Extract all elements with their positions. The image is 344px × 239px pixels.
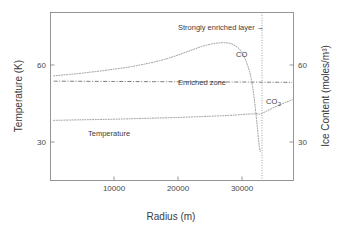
figure-container: 10000 20000 30000 60 30 60 30 Radius (m)… [0,0,344,239]
annotation-co: CO [236,50,247,59]
x-tick-label-10000: 10000 [103,184,126,193]
x-axis-ticks [114,177,242,181]
annotation-co2: CO 2 [266,97,281,107]
y-axis-right-ticks [290,65,294,142]
y-axis-title-left: Temperature (K) [13,60,24,132]
annotation-co2-text: CO [266,97,277,106]
y-tick-label-left-60: 60 [37,61,46,70]
y-axis-left-ticks [51,65,55,142]
chart-canvas: 10000 20000 30000 60 30 60 30 Radius (m)… [0,0,344,239]
x-axis-title: Radius (m) [147,211,196,222]
series-line-enriched-zone [54,81,293,82]
plot-frame [51,13,294,181]
x-tick-label-30000: 30000 [231,184,254,193]
x-tick-label-20000: 20000 [167,184,190,193]
annotation-enriched-zone: Enriched zone [178,78,226,87]
annotation-co2-subscript: 2 [278,101,281,107]
y-tick-label-right-60: 60 [298,61,307,70]
series-line-co [54,43,261,152]
annotation-temperature: Temperature [88,129,130,138]
y-tick-label-left-30: 30 [37,138,46,147]
y-axis-title-right: Ice Content (moles/m³) [320,45,331,147]
y-tick-label-right-30: 30 [298,138,307,147]
annotation-strongly-enriched-layer: Strongly enriched layer → [178,23,264,32]
